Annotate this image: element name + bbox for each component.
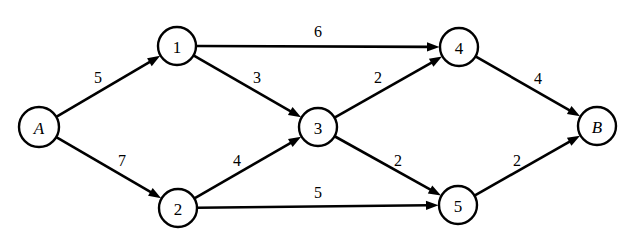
graph-canvas: 5763452242 A12345B: [0, 0, 623, 242]
node-label: 2: [174, 200, 183, 219]
edge-4-to-B: [476, 57, 580, 117]
arrow-head: [429, 57, 442, 67]
edge-2-to-5: [198, 201, 439, 210]
arrow-head: [288, 107, 301, 117]
arrow-head: [567, 136, 580, 146]
edge-3-to-4: [335, 57, 442, 118]
node-5[interactable]: 5: [439, 186, 477, 224]
node-label: 4: [455, 39, 464, 58]
node-label: 1: [173, 38, 182, 57]
edge-weight-1-4: 6: [314, 23, 322, 40]
edge-weight-2-5: 5: [314, 184, 322, 201]
node-1[interactable]: 1: [158, 27, 196, 65]
arrow-head: [147, 56, 160, 66]
arrow-head: [288, 137, 301, 147]
edge-1-to-3: [194, 56, 301, 118]
edge-line: [476, 57, 571, 111]
node-label: 5: [454, 197, 463, 216]
edge-1-to-4: [197, 42, 440, 51]
edge-line: [475, 141, 571, 196]
node-4[interactable]: 4: [440, 28, 478, 66]
edge-weight-2-3: 4: [233, 152, 241, 169]
node-label: A: [33, 119, 45, 138]
arrow-head: [148, 188, 161, 198]
edge-weight-3-4: 2: [374, 69, 382, 86]
node-A[interactable]: A: [19, 107, 59, 147]
edge-2-to-3: [195, 137, 301, 198]
node-label: 3: [314, 119, 323, 138]
edge-3-to-5: [335, 136, 441, 195]
edge-weight-A-1: 5: [94, 69, 102, 86]
arrow-head: [567, 106, 580, 116]
edge-A-to-1: [57, 56, 160, 117]
edge-weight-4-B: 4: [534, 70, 542, 87]
arrow-head: [427, 42, 440, 51]
edge-line: [335, 136, 432, 190]
edge-line: [197, 46, 430, 47]
edge-line: [335, 62, 433, 118]
edge-A-to-2: [57, 137, 161, 198]
edge-weight-5-B: 2: [513, 152, 521, 169]
edge-line: [198, 205, 429, 207]
edge-weight-3-5: 2: [394, 152, 402, 169]
network-diagram: 5763452242 A12345B: [0, 0, 623, 242]
edge-line: [57, 137, 152, 193]
arrow-head: [426, 201, 439, 210]
edge-weight-A-2: 7: [118, 152, 126, 169]
edge-line: [194, 56, 292, 112]
arrow-head: [428, 185, 441, 195]
edge-line: [57, 61, 151, 116]
edge-line: [195, 142, 292, 198]
edge-5-to-B: [475, 136, 580, 196]
node-B[interactable]: B: [578, 107, 616, 145]
node-2[interactable]: 2: [159, 189, 197, 227]
node-label: B: [592, 118, 603, 137]
edge-weight-1-3: 3: [253, 69, 261, 86]
node-3[interactable]: 3: [299, 108, 337, 146]
